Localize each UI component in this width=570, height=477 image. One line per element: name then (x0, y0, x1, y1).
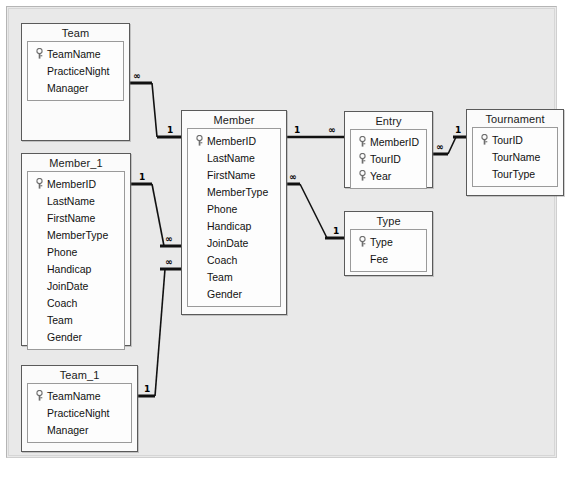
field-name: Handicap (206, 220, 251, 232)
field-row[interactable]: Team (188, 268, 280, 285)
field-row[interactable]: TeamName (28, 387, 131, 404)
field-row[interactable]: FirstName (28, 209, 124, 226)
field-row[interactable]: Coach (188, 251, 280, 268)
cardinality-team-many: ∞ (133, 72, 140, 81)
field-name: MemberType (206, 186, 268, 198)
field-name: TourID (369, 153, 401, 165)
field-list-team: TeamNamePracticeNightManager (27, 41, 124, 101)
field-list-type: TypeFee (350, 229, 427, 272)
field-row[interactable]: LastName (28, 192, 124, 209)
field-row[interactable]: Manager (28, 421, 131, 438)
field-list-team_1: TeamNamePracticeNightManager (27, 383, 132, 443)
field-name: MemberType (46, 229, 108, 241)
cardinality-team1-one: 1 (144, 385, 150, 394)
field-row[interactable]: MemberType (188, 183, 280, 200)
field-name: Manager (46, 424, 88, 436)
table-title-type: Type (345, 212, 432, 229)
key-icon (35, 48, 44, 59)
field-name: Team (206, 271, 233, 283)
field-row[interactable]: Manager (28, 79, 123, 96)
field-name: Gender (206, 288, 242, 300)
table-entry[interactable]: EntryMemberIDTourIDYear (344, 111, 433, 188)
field-name: Handicap (46, 263, 91, 275)
field-row[interactable]: Handicap (28, 260, 124, 277)
cardinality-tournament-one: 1 (455, 126, 461, 135)
key-icon (480, 134, 489, 145)
field-list-tournament: TourIDTourNameTourType (472, 127, 558, 187)
field-row[interactable]: TourID (351, 150, 426, 167)
key-icon-slot (193, 135, 206, 146)
field-row[interactable]: Gender (188, 285, 280, 302)
key-icon-slot (33, 48, 46, 59)
field-row[interactable]: Year (351, 167, 426, 184)
field-row[interactable]: Coach (28, 294, 124, 311)
relationships-canvas: ∞ 1 1 ∞ 1 ∞ 1 ∞ ∞ 1 ∞ 1 TeamTeamNamePrac… (0, 0, 570, 477)
field-row[interactable]: PracticeNight (28, 404, 131, 421)
field-name: Phone (206, 203, 237, 215)
field-row[interactable]: PracticeNight (28, 62, 123, 79)
field-list-member_1: MemberIDLastNameFirstNameMemberTypePhone… (27, 171, 125, 350)
table-tournament[interactable]: TournamentTourIDTourNameTourType (466, 109, 564, 196)
table-team[interactable]: TeamTeamNamePracticeNightManager (21, 23, 130, 141)
field-name: TourType (491, 168, 535, 180)
key-icon (195, 135, 204, 146)
table-member-1[interactable]: Member_1MemberIDLastNameFirstNameMemberT… (21, 153, 131, 346)
key-icon (358, 136, 367, 147)
field-row[interactable]: Team (28, 311, 124, 328)
field-name: Phone (46, 246, 77, 258)
field-row[interactable]: Phone (188, 200, 280, 217)
field-name: FirstName (46, 212, 95, 224)
field-name: JoinDate (206, 237, 248, 249)
field-name: Type (369, 236, 393, 248)
field-row[interactable]: MemberID (28, 175, 124, 192)
cardinality-member-many-t1: ∞ (165, 258, 172, 267)
cardinality-entry-many-tour: ∞ (436, 143, 443, 152)
field-name: Coach (206, 254, 237, 266)
table-title-team: Team (22, 24, 129, 41)
table-team-1[interactable]: Team_1TeamNamePracticeNightManager (21, 365, 138, 452)
field-row[interactable]: Phone (28, 243, 124, 260)
field-name: Gender (46, 331, 82, 343)
field-row[interactable]: JoinDate (28, 277, 124, 294)
field-row[interactable]: JoinDate (188, 234, 280, 251)
cardinality-type-one: 1 (333, 227, 339, 236)
key-icon-slot (33, 390, 46, 401)
key-icon-slot (356, 170, 369, 181)
key-icon-slot (356, 236, 369, 247)
cardinality-member-many-type: ∞ (289, 173, 296, 182)
field-row[interactable]: TourType (473, 165, 557, 182)
table-type[interactable]: TypeTypeFee (344, 211, 433, 276)
field-row[interactable]: Fee (351, 250, 426, 267)
field-name: TourName (491, 151, 540, 163)
field-row[interactable]: TeamName (28, 45, 123, 62)
field-name: TeamName (46, 390, 101, 402)
field-name: LastName (206, 152, 255, 164)
field-row[interactable]: TourName (473, 148, 557, 165)
field-row[interactable]: Handicap (188, 217, 280, 234)
field-name: Fee (369, 253, 388, 265)
field-name: Year (369, 170, 391, 182)
field-name: Coach (46, 297, 77, 309)
cardinality-member-one-entry: 1 (294, 126, 300, 135)
key-icon-slot (356, 136, 369, 147)
key-icon-slot (33, 178, 46, 189)
field-row[interactable]: Gender (28, 328, 124, 345)
field-row[interactable]: FirstName (188, 166, 280, 183)
cardinality-member-many-m1: ∞ (165, 235, 172, 244)
field-name: JoinDate (46, 280, 88, 292)
field-name: TourID (491, 134, 523, 146)
field-row[interactable]: Type (351, 233, 426, 250)
field-name: TeamName (46, 48, 101, 60)
table-member[interactable]: MemberMemberIDLastNameFirstNameMemberTyp… (181, 110, 287, 315)
field-list-member: MemberIDLastNameFirstNameMemberTypePhone… (187, 128, 281, 307)
key-icon (358, 236, 367, 247)
field-row[interactable]: LastName (188, 149, 280, 166)
field-name: LastName (46, 195, 95, 207)
field-row[interactable]: TourID (473, 131, 557, 148)
field-row[interactable]: MemberID (351, 133, 426, 150)
field-row[interactable]: MemberID (188, 132, 280, 149)
field-name: FirstName (206, 169, 255, 181)
table-title-member: Member (182, 111, 286, 128)
key-icon (358, 153, 367, 164)
field-row[interactable]: MemberType (28, 226, 124, 243)
